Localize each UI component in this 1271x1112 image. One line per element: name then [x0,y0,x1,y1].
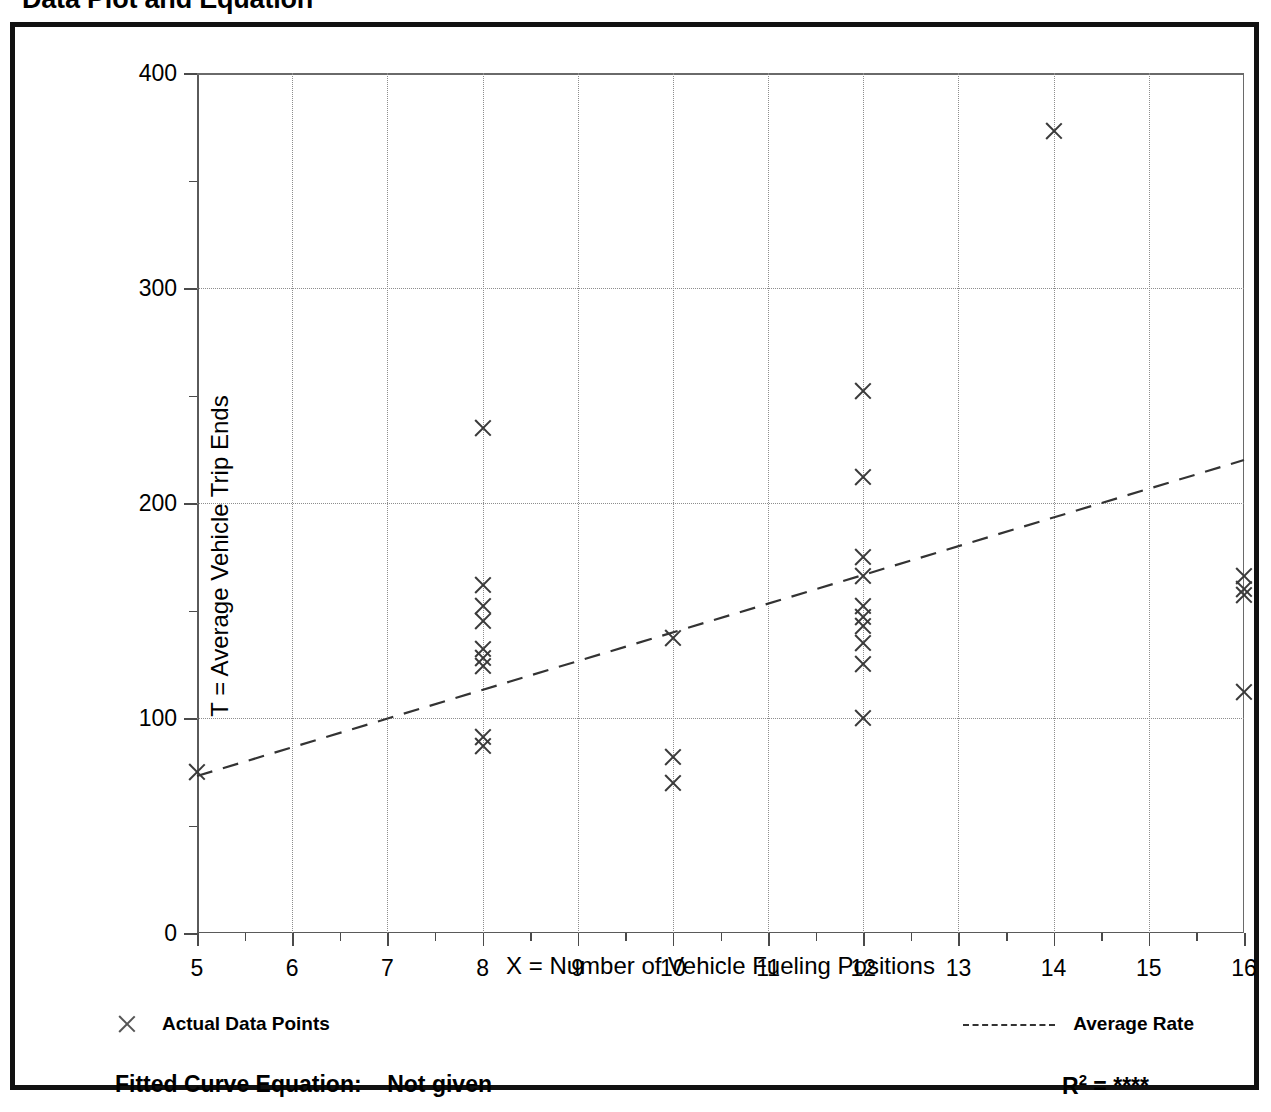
legend-actual-label: Actual Data Points [162,1013,330,1035]
chart-inner: T = Average Vehicle Trip Ends X = Number… [15,27,1254,1085]
x-tick-7 [387,933,389,946]
x-minor-tick-6.5 [340,933,342,941]
x-tick-label-12: 12 [850,955,876,982]
y-tick-label-0: 0 [164,920,177,947]
y-minor-tick-350 [189,181,197,183]
x-tick-11 [768,933,770,946]
x-minor-tick-5.5 [245,933,247,941]
x-tick-10 [673,933,675,946]
x-tick-label-11: 11 [756,955,780,982]
x-minor-tick-10.5 [721,933,723,941]
x-minor-tick-11.5 [816,933,818,941]
equation-label: Fitted Curve Equation: [115,1071,362,1097]
y-tick-0 [184,933,197,935]
plot-area: 0100200300400 5678910111213141516 [197,73,1244,933]
x-tick-14 [1054,933,1056,946]
legend-actual-data-points: Actual Data Points [110,1012,330,1036]
x-tick-label-14: 14 [1041,955,1067,982]
x-tick-5 [197,933,199,946]
x-tick-label-13: 13 [946,955,972,982]
y-tick-200 [184,503,197,505]
x-tick-label-5: 5 [191,955,204,982]
x-tick-label-7: 7 [381,955,394,982]
y-tick-300 [184,288,197,290]
y-minor-tick-250 [189,396,197,398]
trendline-segment [197,460,1244,776]
y-tick-100 [184,718,197,720]
y-minor-tick-50 [189,826,197,828]
x-tick-6 [292,933,294,946]
x-minor-tick-12.5 [911,933,913,941]
r-squared-equals: = [1093,1073,1106,1099]
r-squared-value: **** [1113,1073,1149,1099]
x-minor-tick-9.5 [625,933,627,941]
r-squared-label: R [1062,1073,1079,1099]
y-tick-label-400: 400 [139,60,177,87]
x-tick-9 [578,933,580,946]
y-tick-label-200: 200 [139,490,177,517]
x-tick-label-10: 10 [660,955,686,982]
r-squared-exponent: 2 [1079,1071,1087,1088]
x-tick-label-15: 15 [1136,955,1162,982]
x-minor-tick-13.5 [1006,933,1008,941]
equation-value: Not given [387,1071,492,1097]
fitted-curve-equation: Fitted Curve Equation: Not given [115,1071,492,1098]
x-tick-label-16: 16 [1231,955,1257,982]
x-tick-15 [1149,933,1151,946]
legend-average-rate-label: Average Rate [1073,1013,1194,1035]
legend-average-rate: Average Rate [963,1012,1194,1036]
x-tick-13 [958,933,960,946]
x-minor-tick-14.5 [1101,933,1103,941]
page-title: Data Plot and Equation [22,0,313,15]
x-minor-tick-15.5 [1196,933,1198,941]
x-tick-16 [1244,933,1246,946]
y-minor-tick-150 [189,611,197,613]
x-axis-title: X = Number of Vehicle Fueling Positions [197,952,1244,980]
x-tick-12 [863,933,865,946]
x-tick-8 [483,933,485,946]
y-tick-label-300: 300 [139,275,177,302]
x-minor-tick-8.5 [530,933,532,941]
x-tick-label-9: 9 [571,955,584,982]
x-marker-icon [110,1012,144,1036]
y-tick-label-100: 100 [139,705,177,732]
y-tick-400 [184,73,197,75]
chart-frame: T = Average Vehicle Trip Ends X = Number… [10,22,1259,1090]
average-rate-trendline [197,73,1244,933]
x-tick-label-8: 8 [476,955,489,982]
r-squared: R2 = **** [1062,1071,1149,1100]
x-tick-label-6: 6 [286,955,299,982]
x-minor-tick-7.5 [435,933,437,941]
dashed-line-icon [963,1012,1055,1036]
